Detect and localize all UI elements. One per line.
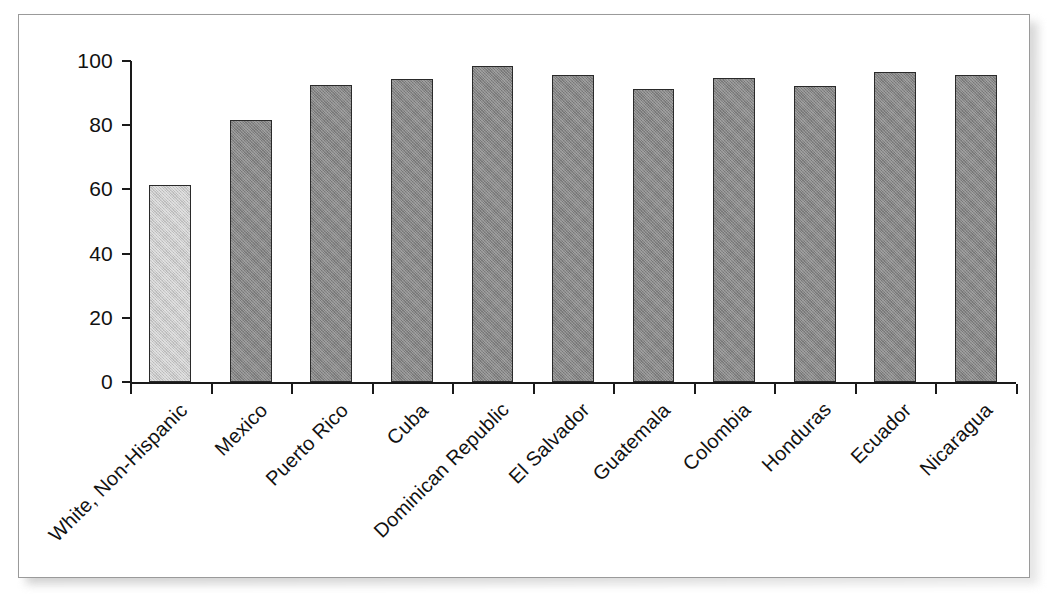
bar-puerto-rico[interactable]: [310, 85, 352, 382]
x-axis-label-el-salvador: El Salvador: [505, 399, 593, 487]
x-tick-mark: [372, 384, 374, 394]
x-tick-mark: [452, 384, 454, 394]
y-tick-mark: [122, 253, 131, 255]
figure-root: 020406080100 White, Non-HispanicMexicoPu…: [0, 0, 1062, 605]
x-tick-mark: [130, 384, 132, 394]
bar-white-non-hispanic[interactable]: [149, 185, 191, 382]
x-axis-label-nicaragua: Nicaragua: [916, 399, 996, 479]
x-axis-label-dominican-republic: Dominican Republic: [370, 399, 512, 541]
bar-guatemala[interactable]: [633, 89, 675, 382]
x-axis-label-cuba: Cuba: [383, 399, 432, 448]
x-axis-label-mexico: Mexico: [211, 399, 271, 459]
x-tick-mark: [211, 384, 213, 394]
y-tick-mark: [122, 188, 131, 190]
x-axis-label-guatemala: Guatemala: [589, 399, 674, 484]
y-tick-label: 80: [49, 114, 113, 135]
bar-honduras[interactable]: [794, 86, 836, 382]
x-tick-mark: [1016, 384, 1018, 394]
bar-mexico[interactable]: [230, 120, 272, 382]
bar-nicaragua[interactable]: [955, 75, 997, 382]
x-axis-line: [130, 382, 1016, 384]
bar-el-salvador[interactable]: [552, 75, 594, 382]
y-tick-label: 100: [49, 50, 113, 71]
y-tick-label: 40: [49, 243, 113, 264]
y-tick-mark: [122, 60, 131, 62]
x-axis-label-honduras: Honduras: [758, 399, 835, 476]
x-tick-mark: [533, 384, 535, 394]
y-tick-mark: [122, 381, 131, 383]
plot-area: 020406080100 White, Non-HispanicMexicoPu…: [19, 15, 1031, 579]
x-tick-mark: [855, 384, 857, 394]
bar-dominican-republic[interactable]: [472, 66, 514, 382]
x-axis-label-puerto-rico: Puerto Rico: [262, 399, 352, 489]
y-tick-label: 20: [49, 307, 113, 328]
chart-panel: 020406080100 White, Non-HispanicMexicoPu…: [18, 14, 1030, 578]
x-tick-mark: [935, 384, 937, 394]
y-tick-mark: [122, 124, 131, 126]
x-tick-mark: [291, 384, 293, 394]
x-tick-mark: [774, 384, 776, 394]
bar-cuba[interactable]: [391, 79, 433, 382]
x-axis-label-ecuador: Ecuador: [847, 399, 915, 467]
y-axis-line: [130, 61, 132, 383]
y-tick-label: 0: [49, 371, 113, 392]
bar-ecuador[interactable]: [874, 72, 916, 382]
x-tick-mark: [613, 384, 615, 394]
bar-colombia[interactable]: [713, 78, 755, 382]
x-tick-mark: [694, 384, 696, 394]
x-axis-label-colombia: Colombia: [679, 399, 754, 474]
y-tick-mark: [122, 317, 131, 319]
x-axis-label-white-non-hispanic: White, Non-Hispanic: [45, 399, 191, 545]
y-tick-label: 60: [49, 178, 113, 199]
